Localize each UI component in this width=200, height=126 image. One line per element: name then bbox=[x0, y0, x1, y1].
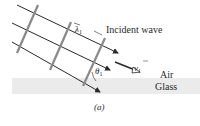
velocity-label: v1 bbox=[134, 64, 141, 74]
glass-label: Glass bbox=[155, 82, 177, 92]
velocity-arrow-shaft bbox=[115, 62, 135, 70]
wavelength-dim-right bbox=[94, 31, 102, 35]
wavefront-2 bbox=[50, 22, 71, 70]
wavefront-1 bbox=[17, 5, 38, 53]
incident-wave-label: Incident wave bbox=[106, 25, 162, 35]
angle-label: θ1 bbox=[95, 67, 102, 77]
figure-caption: (a) bbox=[94, 103, 105, 112]
refraction-diagram: λ1 Incident wave θ1 v1 Air Glass (a) bbox=[0, 0, 200, 126]
wavelength-label: λ1 bbox=[75, 25, 82, 35]
air-label: Air bbox=[160, 70, 173, 80]
